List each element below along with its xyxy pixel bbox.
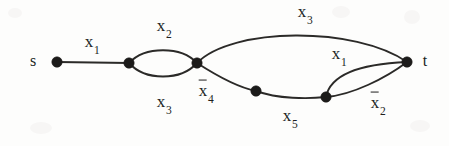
edge-n1-n2-lower — [129, 63, 197, 77]
edge-n3-n4 — [256, 91, 326, 98]
edge-label-e2: x2 — [157, 17, 172, 38]
graph-node-n1 — [124, 58, 134, 68]
edge-group — [57, 35, 407, 98]
edge-label-e3: x3 — [157, 93, 172, 114]
edge-n1-n2-upper — [129, 50, 197, 63]
terminal-label-t: t — [423, 53, 427, 69]
graph-drawing — [0, 0, 449, 146]
edge-label-e4: x3 — [298, 3, 313, 24]
graph-node-n3 — [251, 86, 261, 96]
edge-label-e1: x1 — [85, 33, 100, 54]
graph-node-n2 — [192, 58, 202, 68]
edge-s-n1 — [57, 62, 129, 63]
edge-n4-t-upper — [326, 62, 407, 97]
diagram-canvas: x1x2x3x3x4x5x1x2 s t — [0, 0, 449, 146]
graph-node-s — [52, 57, 62, 67]
edge-label-e8: x2 — [371, 94, 386, 115]
edge-label-e7: x1 — [332, 45, 347, 66]
terminal-label-s: s — [30, 53, 36, 69]
graph-node-n4 — [321, 92, 331, 102]
graph-node-t — [402, 57, 412, 67]
edge-n2-t-arc — [197, 35, 407, 63]
edge-label-e6: x5 — [283, 107, 298, 128]
edge-label-e5: x4 — [199, 82, 214, 103]
